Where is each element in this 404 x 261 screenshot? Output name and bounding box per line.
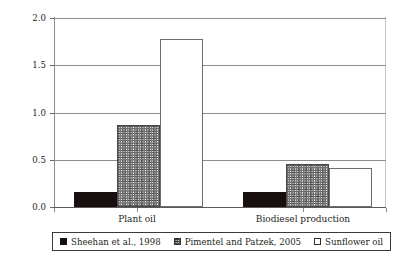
legend-label: Pimentel and Patzek, 2005 (185, 237, 301, 247)
legend-label: Sheehan et al., 1998 (71, 237, 161, 247)
bar (74, 192, 117, 207)
y-axis-tick-label: 0.5 (20, 156, 46, 165)
gridline (54, 113, 386, 114)
y-axis-tick-mark (50, 65, 54, 66)
bar (117, 125, 160, 207)
gridline (54, 160, 386, 161)
x-axis-category-label: Plant oil (57, 213, 217, 225)
legend-swatch-solid-icon (60, 238, 67, 245)
legend-entry[interactable]: Pimentel and Patzek, 2005 (174, 237, 301, 247)
legend-label: Sunflower oil (325, 237, 383, 247)
y-axis-tick-label: 1.5 (20, 61, 46, 70)
legend-entry[interactable]: Sunflower oil (314, 237, 383, 247)
gridline (54, 18, 386, 19)
chart-legend: Sheehan et al., 1998Pimentel and Patzek,… (52, 232, 391, 251)
x-axis-tick-mark (137, 208, 138, 212)
y-axis-tick-label: 2.0 (20, 14, 46, 23)
plot-area (54, 18, 386, 207)
bar-chart-figure: Fossil energy input (MJ/MJ biodiesel) 0.… (0, 0, 404, 261)
x-axis-spine (54, 207, 386, 208)
y-axis-tick-label: 1.0 (20, 109, 46, 118)
x-axis-tick-mark (303, 208, 304, 212)
y-axis-tick-label: 0.0 (20, 203, 46, 212)
legend-swatch-open-icon (314, 238, 321, 245)
bar (243, 192, 286, 207)
bar (160, 39, 203, 207)
y-axis-tick-labels: 0.00.51.01.52.0 (16, 0, 46, 261)
bar (329, 168, 372, 207)
legend-swatch-hatch-icon (174, 238, 181, 245)
x-axis-tick-mark (54, 208, 55, 212)
x-axis-category-label: Biodiesel production (223, 213, 383, 225)
y-axis-tick-mark (50, 160, 54, 161)
y-axis-tick-mark (50, 113, 54, 114)
y-axis-tick-mark (50, 18, 54, 19)
gridline (54, 65, 386, 66)
legend-entry[interactable]: Sheehan et al., 1998 (60, 237, 161, 247)
bar (286, 164, 329, 207)
x-axis-tick-mark (386, 208, 387, 212)
